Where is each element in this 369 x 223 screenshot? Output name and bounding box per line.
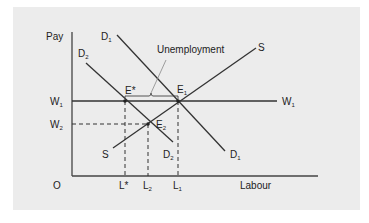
d2-bottom-label: D2 <box>163 149 174 161</box>
s-bottom-label: S <box>102 149 109 160</box>
s-top-label: S <box>258 42 265 53</box>
d2-top-label: D2 <box>78 48 89 60</box>
unemployment-label: Unemployment <box>157 44 224 55</box>
d1-top-label: D1 <box>101 31 112 43</box>
point-e-star <box>123 99 127 103</box>
l2-label: L2 <box>143 180 153 192</box>
e1-label: E1 <box>177 84 188 96</box>
labour-market-diagram: Pay Labour O W1 W1 W2 L* L2 L1 S S D1 D1… <box>0 0 369 223</box>
e2-label: E2 <box>156 119 167 131</box>
supply-curve <box>113 48 256 148</box>
e-star-label: E* <box>125 85 136 96</box>
lstar-label: L* <box>119 180 129 191</box>
demand-curve-d2 <box>86 63 173 142</box>
origin-label: O <box>53 180 61 191</box>
x-axis-label: Labour <box>240 180 272 191</box>
y-axis-label: Pay <box>46 31 63 42</box>
point-e1 <box>176 99 180 103</box>
l1-label: L1 <box>173 180 183 192</box>
unemployment-pointer <box>151 60 166 93</box>
point-e2 <box>146 122 150 126</box>
d1-bottom-label: D1 <box>230 149 241 161</box>
w1-left-label: W1 <box>50 96 63 108</box>
w1-right-label: W1 <box>282 96 295 108</box>
w2-label: W2 <box>50 119 63 131</box>
